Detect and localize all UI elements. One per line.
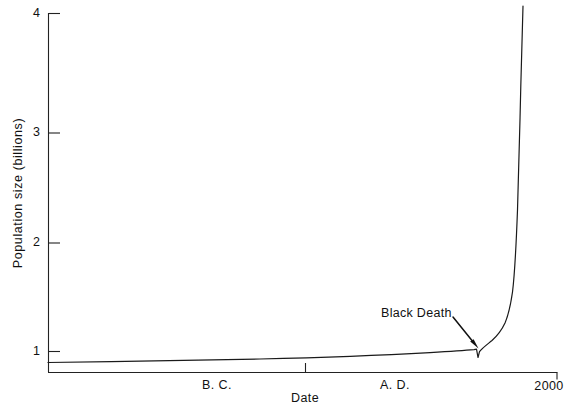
y-tick-label-3: 3 — [20, 125, 40, 139]
y-tick-label-4: 4 — [20, 6, 40, 20]
population-growth-chart: Population size (billions) Date 4 3 2 1 … — [0, 0, 573, 415]
y-tick-label-2: 2 — [20, 235, 40, 249]
y-axis-title: Population size (billions) — [11, 93, 25, 293]
y-tick-label-1: 1 — [20, 344, 40, 358]
x-label-ad: A. D. — [365, 378, 425, 392]
population-curve — [48, 6, 523, 363]
black-death-arrow-shaft — [453, 317, 474, 343]
x-tick-label-2000: 2000 — [524, 379, 573, 393]
x-label-bc: B. C. — [187, 378, 247, 392]
annotation-black-death: Black Death — [381, 306, 452, 320]
chart-canvas — [0, 0, 573, 415]
x-axis-title: Date — [255, 391, 355, 405]
